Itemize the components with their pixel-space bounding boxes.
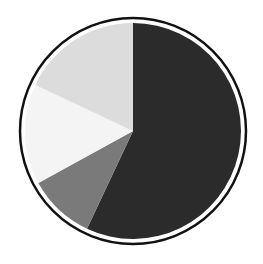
pie-slices [25,23,241,239]
pie-chart-svg [0,0,263,264]
pie-chart [0,0,263,264]
